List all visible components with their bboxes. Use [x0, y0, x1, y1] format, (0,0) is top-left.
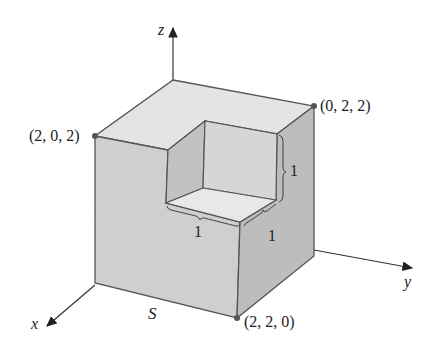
point-2-2-0-label: (2, 2, 0) — [244, 314, 295, 330]
dim-front-label: 1 — [194, 224, 202, 240]
point-2-2-0-marker — [234, 315, 240, 321]
x-axis-label: x — [31, 316, 38, 332]
z-axis-label: z — [158, 22, 164, 38]
x-axis — [47, 285, 95, 326]
point-0-2-2-marker — [311, 103, 317, 109]
y-axis — [314, 250, 412, 268]
notch-back-wall — [203, 121, 277, 200]
dim-side-label: 1 — [268, 228, 276, 244]
point-2-0-2-marker — [92, 133, 98, 139]
y-axis-label: y — [404, 274, 411, 290]
surface-label: S — [148, 305, 157, 322]
cube-with-notch-diagram — [0, 0, 437, 348]
point-2-0-2-label: (2, 0, 2) — [29, 128, 80, 144]
point-0-2-2-label: (0, 2, 2) — [320, 98, 371, 114]
dim-vertical-label: 1 — [290, 163, 298, 179]
